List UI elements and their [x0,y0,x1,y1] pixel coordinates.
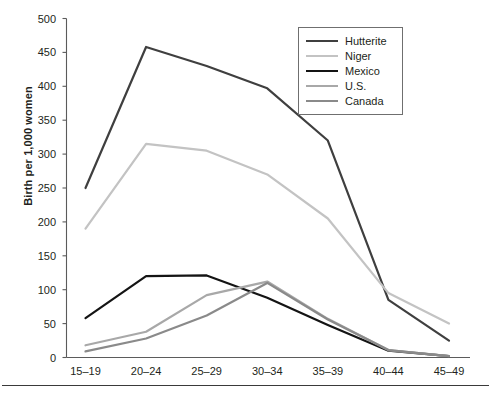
legend-label: Mexico [345,65,380,77]
legend-label: Niger [345,50,371,62]
line-chart-figure: Birth per 1,000 women 050100150200250300… [0,0,491,400]
y-tick-label: 150 [22,251,56,261]
legend-swatch-line-icon [306,55,338,57]
y-tick-label: 300 [22,149,56,159]
legend-item-hutterite[interactable]: Hutterite [306,33,395,48]
x-tick-label: 45–49 [419,366,479,377]
series-line-canada [86,283,450,356]
legend-item-mexico[interactable]: Mexico [306,63,395,78]
x-tick-label: 40–44 [358,366,418,377]
legend-item-niger[interactable]: Niger [306,48,395,63]
axis-lines [67,19,471,358]
x-tick-label: 30–34 [237,366,297,377]
x-tick-label: 35–39 [298,366,358,377]
series-line-mexico [86,275,450,356]
tick-marks [63,19,67,358]
chart-plot-area [0,0,491,400]
y-tick-label: 450 [22,47,56,57]
y-tick-label: 200 [22,217,56,227]
legend-item-canada[interactable]: Canada [306,93,395,108]
series-line-u-s [86,282,450,357]
legend-label: Canada [345,95,384,107]
legend-swatch-line-icon [306,40,338,42]
legend-swatch-line-icon [306,70,338,72]
y-tick-label: 500 [22,14,56,24]
footer-divider [2,385,489,386]
series-line-niger [86,144,450,324]
y-tick-label: 350 [22,115,56,125]
x-tick-label: 25–29 [177,366,237,377]
legend-label: U.S. [345,80,366,92]
legend-item-u-s[interactable]: U.S. [306,78,395,93]
legend-label: Hutterite [345,35,387,47]
legend-swatch-line-icon [306,100,338,102]
y-tick-label: 50 [22,319,56,329]
x-tick-label: 15–19 [56,366,116,377]
y-tick-label: 0 [22,353,56,363]
x-tick-label: 20–24 [116,366,176,377]
y-tick-label: 250 [22,183,56,193]
y-tick-label: 400 [22,81,56,91]
legend-swatch-line-icon [306,85,338,87]
y-tick-label: 100 [22,285,56,295]
chart-legend: HutteriteNigerMexicoU.S.Canada [298,27,403,115]
